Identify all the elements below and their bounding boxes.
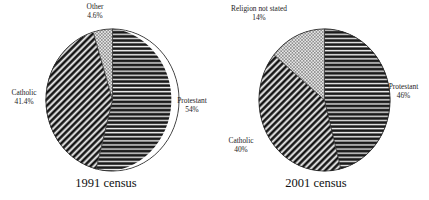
slice-label-other-1991-pct: 4.6% [74, 11, 116, 20]
chart-caption-1991: 1991 census [48, 176, 164, 191]
slice-label-protestant-2001-name: Protestant [389, 82, 419, 91]
slice-label-protestant-1991-name: Protestant [177, 96, 207, 105]
slice-label-religion-not-stated-2001-pct: 14% [216, 13, 302, 22]
chart-caption-2001: 2001 census [258, 176, 374, 191]
slice-label-catholic-2001-pct: 40% [219, 145, 263, 154]
pie-svg-2001 [258, 28, 391, 172]
pie-chart-2001 [258, 28, 391, 172]
slice-label-protestant-1991: Protestant 54% [168, 96, 216, 114]
chart-panel-1991-census: Other 4.6% Catholic 41.4% Protestant 54%… [0, 0, 215, 200]
chart-panel-2001-census: Religion not stated 14% Catholic 40% Pro… [214, 0, 429, 200]
slice-label-protestant-2001: Protestant 46% [378, 82, 429, 100]
slice-label-catholic-1991-name: Catholic [11, 88, 36, 97]
slice-label-religion-not-stated-2001-name: Religion not stated [231, 4, 287, 13]
slice-label-catholic-2001-name: Catholic [228, 136, 253, 145]
slice-label-catholic-1991: Catholic 41.4% [2, 88, 46, 106]
slice-label-catholic-2001: Catholic 40% [219, 136, 263, 154]
pie-chart-1991 [45, 28, 180, 172]
two-pie-chart-figure: · · [0, 0, 429, 200]
slice-label-protestant-2001-pct: 46% [378, 91, 429, 100]
slice-label-catholic-1991-pct: 41.4% [2, 97, 46, 106]
slice-label-other-1991-name: Other [87, 2, 104, 11]
pie-svg-1991 [45, 28, 180, 172]
slice-label-religion-not-stated-2001: Religion not stated 14% [216, 4, 302, 22]
slice-label-protestant-1991-pct: 54% [168, 105, 216, 114]
slice-label-other-1991: Other 4.6% [74, 2, 116, 20]
